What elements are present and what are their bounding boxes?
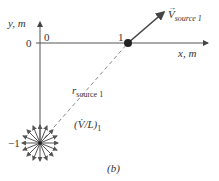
r-subscript: source 1 — [76, 90, 103, 99]
vector-arrow-icon: → — [168, 4, 176, 12]
diagram-canvas — [0, 0, 219, 181]
x-tick-1: 1 — [118, 32, 124, 43]
point-1-0 — [124, 39, 132, 47]
r-source-label: rsource 1 — [72, 85, 103, 99]
y-tick-neg1: −1 — [8, 138, 20, 149]
velocity-label: Vsource 1 → — [168, 9, 202, 23]
velocity-vector-arrow — [128, 12, 164, 43]
y-axis-label: y, m — [8, 17, 26, 29]
source-strength-symbol: (V̇/L) — [74, 118, 97, 130]
source-point — [38, 141, 42, 145]
panel-label: (b) — [107, 163, 120, 174]
origin-y-tick: 0 — [26, 38, 32, 49]
velocity-subscript: source 1 — [175, 14, 202, 23]
origin-x-tick: 0 — [44, 32, 50, 43]
source-strength-label: (V̇/L)1 — [74, 119, 101, 133]
x-axis-label: x, m — [178, 48, 196, 59]
source-strength-subscript: 1 — [97, 124, 101, 133]
